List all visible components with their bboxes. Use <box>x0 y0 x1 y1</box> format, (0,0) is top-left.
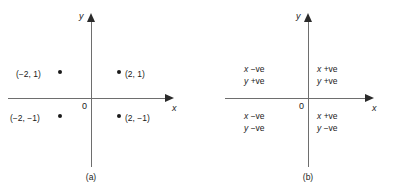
quadrant-three-x-line: x −ve <box>244 110 265 122</box>
quadrant-one-x-var: x <box>317 64 321 74</box>
quadrant-four-label: x +ve y −ve <box>317 110 338 134</box>
point-label-2-neg1: (2, −1) <box>125 114 150 123</box>
x-axis-label-a: x <box>172 104 177 113</box>
y-axis-arrow-b <box>304 13 312 22</box>
quadrant-two-y-sign: +ve <box>251 76 265 86</box>
coordinate-figure: x y 0 (−2, 1) (2, 1) (−2, −1) (2, −1) (a… <box>0 0 399 189</box>
point-label-neg2-1: (−2, 1) <box>16 70 41 79</box>
quadrant-two-x-line: x −ve <box>244 63 265 75</box>
y-axis-line-b <box>308 22 309 167</box>
panel-caption-b: (b) <box>288 173 328 182</box>
panel-a: x y 0 (−2, 1) (2, 1) (−2, −1) (2, −1) (a… <box>0 0 199 189</box>
quadrant-four-x-sign: +ve <box>324 111 338 121</box>
quadrant-two-y-var: y <box>244 76 248 86</box>
panel-caption-a: (a) <box>71 173 111 182</box>
x-axis-line-b <box>225 98 366 99</box>
y-axis-arrow-a <box>87 13 95 22</box>
quadrant-two-y-line: y +ve <box>244 75 265 87</box>
quadrant-three-y-sign: −ve <box>251 123 265 133</box>
origin-label-a: 0 <box>82 102 87 111</box>
quadrant-two-x-var: x <box>244 64 248 74</box>
quadrant-four-x-line: x +ve <box>317 110 338 122</box>
quadrant-four-y-line: y −ve <box>317 122 338 134</box>
quadrant-one-x-sign: +ve <box>324 64 338 74</box>
quadrant-four-y-sign: −ve <box>324 123 338 133</box>
quadrant-one-y-sign: +ve <box>324 76 338 86</box>
quadrant-two-label: x −ve y +ve <box>244 63 265 87</box>
quadrant-two-x-sign: −ve <box>251 64 265 74</box>
x-axis-line-a <box>8 98 166 99</box>
x-axis-arrow-a <box>165 94 174 102</box>
y-axis-label-b: y <box>296 12 301 21</box>
y-axis-line-a <box>91 22 92 167</box>
origin-label-b: 0 <box>299 102 304 111</box>
quadrant-four-x-var: x <box>317 111 321 121</box>
point-dot-2-1 <box>117 70 121 74</box>
point-dot-neg2-neg1 <box>58 114 62 118</box>
quadrant-three-x-sign: −ve <box>251 111 265 121</box>
quadrant-three-x-var: x <box>244 111 248 121</box>
quadrant-three-label: x −ve y −ve <box>244 110 265 134</box>
quadrant-one-y-line: y +ve <box>317 75 338 87</box>
quadrant-one-y-var: y <box>317 76 321 86</box>
point-dot-2-neg1 <box>117 114 121 118</box>
panel-b: x y 0 x −ve y +ve x +ve y +ve <box>200 0 399 189</box>
quadrant-three-y-line: y −ve <box>244 122 265 134</box>
quadrant-four-y-var: y <box>317 123 321 133</box>
point-label-neg2-neg1: (−2, −1) <box>10 114 40 123</box>
quadrant-three-y-var: y <box>244 123 248 133</box>
y-axis-label-a: y <box>79 12 84 21</box>
quadrant-one-label: x +ve y +ve <box>317 63 338 87</box>
point-dot-neg2-1 <box>58 70 62 74</box>
x-axis-arrow-b <box>365 94 374 102</box>
point-label-2-1: (2, 1) <box>125 70 145 79</box>
x-axis-label-b: x <box>372 104 377 113</box>
quadrant-one-x-line: x +ve <box>317 63 338 75</box>
